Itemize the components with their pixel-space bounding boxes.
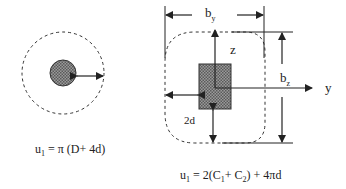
diagram-canvas [0, 0, 346, 189]
circular-column-diagram [22, 32, 104, 114]
bz-label: bz [280, 70, 290, 88]
rectangular-perimeter-formula: u1 = 2(C1+ C2) + 4πd [180, 168, 281, 184]
by-label: by [205, 5, 216, 23]
circular-perimeter-formula: u1 = π (D+ 4d) [35, 142, 105, 158]
offset-2d-label: 2d [184, 114, 195, 126]
y-axis-label: y [325, 80, 332, 96]
circular-column [50, 60, 76, 86]
z-axis-label: z [230, 42, 236, 58]
